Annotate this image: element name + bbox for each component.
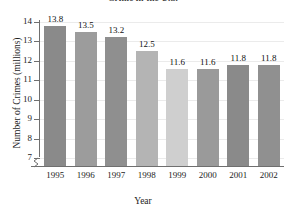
y-tick-mark — [34, 61, 40, 62]
bar-value-label: 12.5 — [127, 39, 167, 49]
y-tick-label: 8 — [18, 133, 32, 143]
bar — [258, 65, 280, 166]
y-tick-label: 9 — [18, 113, 32, 123]
chart-title: Crime in the U.S. — [0, 0, 286, 3]
x-tick-label: 2002 — [249, 170, 286, 180]
y-tick-mark — [34, 158, 40, 159]
y-tick-mark — [34, 80, 40, 81]
y-tick-mark — [34, 100, 40, 101]
bar — [105, 37, 127, 166]
y-tick-label: 10 — [18, 94, 32, 104]
bar — [227, 65, 249, 166]
y-tick-label: 14 — [18, 16, 32, 26]
bar — [136, 51, 158, 166]
x-axis-title: Year — [0, 196, 286, 206]
x-axis-line — [31, 166, 284, 167]
y-tick-mark — [34, 41, 40, 42]
y-tick-mark — [34, 119, 40, 120]
y-tick-mark — [34, 139, 40, 140]
bar-value-label: 13.2 — [96, 25, 136, 35]
y-tick-label: 11 — [18, 74, 32, 84]
bar — [197, 69, 219, 166]
bar-value-label: 11.8 — [249, 53, 286, 63]
y-tick-label: 12 — [18, 55, 32, 65]
plot-area — [40, 14, 284, 166]
bar-chart: Crime in the U.S. Number of Crimes (mill… — [0, 0, 286, 213]
y-tick-label: 13 — [18, 35, 32, 45]
bar — [44, 26, 66, 166]
bar — [166, 69, 188, 166]
y-tick-label: 7 — [18, 152, 32, 162]
bar — [75, 32, 97, 166]
